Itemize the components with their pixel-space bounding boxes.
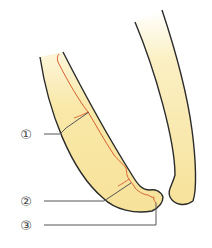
left-tooth xyxy=(40,52,163,212)
callout-label-2: ② xyxy=(20,194,32,209)
left-tooth-body xyxy=(40,52,163,212)
right-tooth-body xyxy=(135,10,196,204)
callout-label-1: ① xyxy=(20,127,32,142)
tooth-diagram: ① ② ③ xyxy=(0,0,212,248)
callout-labels: ① ② ③ xyxy=(20,127,32,233)
right-tooth xyxy=(135,10,196,204)
callout-label-3: ③ xyxy=(20,218,32,233)
